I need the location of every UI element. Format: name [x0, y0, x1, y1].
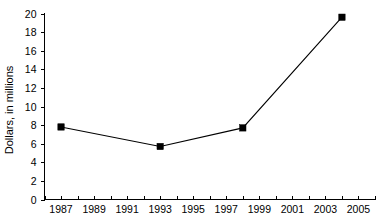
x-tick-label-1999: 1999 [248, 203, 272, 215]
y-tick-label-10: 10 [25, 101, 37, 113]
y-tick-label-18: 18 [25, 26, 37, 38]
x-tick-label-1993: 1993 [148, 203, 172, 215]
chart-background [0, 0, 384, 223]
x-tick-label-1987: 1987 [49, 203, 73, 215]
data-point-2004 [339, 14, 345, 20]
y-tick-label-8: 8 [31, 119, 37, 131]
x-tick-label-2003: 2003 [314, 203, 338, 215]
data-point-1993 [157, 143, 163, 149]
x-tick-label-1991: 1991 [115, 203, 139, 215]
data-point-1998 [240, 125, 246, 131]
y-tick-label-4: 4 [31, 156, 37, 168]
y-tick-label-20: 20 [25, 8, 37, 20]
x-tick-label-2005: 2005 [347, 203, 371, 215]
y-tick-label-14: 14 [25, 63, 37, 75]
x-tick-label-1997: 1997 [215, 203, 239, 215]
chart-canvas: 02468101214161820 Dollars, in millions 1… [0, 0, 384, 223]
x-tick-label-2001: 2001 [281, 203, 305, 215]
y-tick-label-16: 16 [25, 45, 37, 57]
y-tick-label-12: 12 [25, 82, 37, 94]
y-tick-label-0: 0 [31, 194, 37, 206]
line-chart: 02468101214161820 Dollars, in millions 1… [0, 0, 384, 223]
y-tick-label-2: 2 [31, 175, 37, 187]
x-tick-label-1989: 1989 [82, 203, 106, 215]
x-tick-label-1995: 1995 [182, 203, 206, 215]
data-point-1987 [58, 124, 64, 130]
x-axis-ticks [46, 196, 376, 200]
y-axis-title: Dollars, in millions [3, 65, 15, 154]
y-tick-label-6: 6 [31, 138, 37, 150]
